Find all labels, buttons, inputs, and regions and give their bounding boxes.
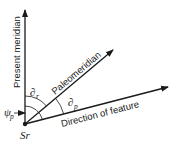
angle-arc-feature xyxy=(56,98,64,114)
angle-feature-symbol: ∂ xyxy=(68,96,73,108)
angle-feature-subscript: p xyxy=(73,102,78,111)
angle-psi-subscript: p xyxy=(9,112,14,121)
paleomeridian-diagram: Present meridian Paleomeridian Direction… xyxy=(0,0,178,142)
origin-point xyxy=(23,122,27,126)
paleomeridian-label: Paleomeridian xyxy=(49,49,103,96)
origin-label: Sr xyxy=(20,129,31,141)
angle-meridians-symbol: ∂ xyxy=(30,86,35,98)
present-meridian-label: Present meridian xyxy=(11,16,22,88)
angle-meridians-subscript: r xyxy=(36,92,39,101)
